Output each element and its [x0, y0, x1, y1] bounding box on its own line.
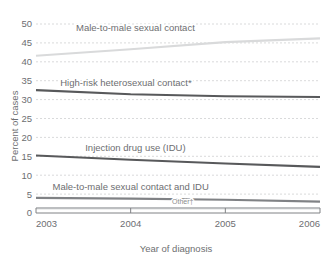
y-tick-labels-group: 05101520253035404550	[21, 18, 32, 218]
y-tick-label: 35	[21, 75, 32, 86]
gridlines-group	[36, 24, 320, 194]
series-line	[36, 90, 320, 97]
line-chart: 05101520253035404550 2003200420052006 Ma…	[0, 0, 333, 267]
x-tick-label: 2006	[299, 218, 320, 229]
series-line	[36, 38, 320, 55]
series-label: Injection drug use (IDU)	[85, 142, 185, 153]
y-tick-label: 10	[21, 170, 32, 181]
x-tick-label: 2003	[36, 218, 57, 229]
x-tick-label: 2005	[215, 218, 236, 229]
chart-container: 05101520253035404550 2003200420052006 Ma…	[0, 0, 333, 267]
series-label: Male-to-male sexual contact and IDU	[53, 181, 209, 192]
y-tick-label: 25	[21, 113, 32, 124]
y-tick-label: 5	[27, 189, 32, 200]
y-tick-label: 0	[27, 207, 32, 218]
y-tick-label: 40	[21, 56, 32, 67]
series-label: Male-to-male sexual contact	[76, 22, 195, 33]
y-tick-label: 50	[21, 18, 32, 29]
series-line	[36, 156, 320, 167]
x-tick-label: 2004	[120, 218, 141, 229]
y-tick-label: 20	[21, 132, 32, 143]
y-tick-label: 45	[21, 37, 32, 48]
x-tick-labels-group: 2003200420052006	[36, 218, 320, 229]
series-label: High-risk heterosexual contact*	[60, 77, 192, 88]
y-tick-label: 30	[21, 94, 32, 105]
y-axis-title: Percent of cases	[9, 90, 20, 161]
y-tick-label: 15	[21, 151, 32, 162]
x-axis-title: Year of diagnosis	[140, 243, 213, 254]
series-label: Other†	[172, 198, 194, 205]
